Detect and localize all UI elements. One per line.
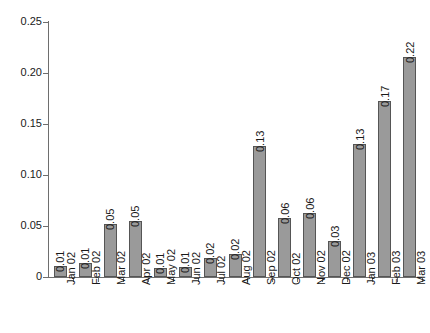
y-tick-mark (43, 226, 48, 227)
y-tick-mark (43, 175, 48, 176)
y-tick-label: 0.25 (4, 16, 42, 27)
y-tick-label: 0.15 (4, 118, 42, 129)
y-tick-mark (43, 277, 48, 278)
x-axis-label: Apr 02 (141, 253, 152, 285)
x-axis-label: Jul 02 (216, 256, 227, 285)
x-axis-label: Aug 02 (241, 250, 252, 285)
bar-chart: 00.050.100.150.200.25 0.010.010.050.050.… (0, 0, 430, 333)
x-axis-label: Oct 02 (291, 253, 302, 285)
y-tick-mark (43, 124, 48, 125)
x-axis-label: Feb 03 (391, 251, 402, 285)
x-axis-label: Jun 02 (191, 252, 202, 285)
x-axis-label: Feb 02 (91, 251, 102, 285)
bar (403, 57, 416, 277)
bar-value-label: 0.13 (255, 131, 266, 152)
x-axis-label: Nov 02 (316, 250, 327, 285)
y-tick-label: 0.20 (4, 67, 42, 78)
x-axis-label: Dec 02 (341, 250, 352, 285)
y-tick-mark (43, 73, 48, 74)
bar-value-label: 0.13 (355, 129, 366, 150)
y-tick-label: 0 (4, 271, 42, 282)
y-axis-line (48, 21, 49, 278)
y-tick-mark (43, 22, 48, 23)
bar-value-label: 0.06 (305, 197, 316, 218)
y-tick-label: 0.05 (4, 220, 42, 231)
x-axis-label: Mar 03 (416, 251, 427, 285)
bar-value-label: 0.17 (380, 85, 391, 106)
y-tick-label: 0.10 (4, 169, 42, 180)
x-axis-label: Jan 02 (66, 252, 77, 285)
x-axis-label: Jan 03 (366, 252, 377, 285)
x-axis-label: Mar 02 (116, 251, 127, 285)
bar-value-label: 0.05 (105, 209, 116, 230)
x-axis-label: May 02 (166, 249, 177, 285)
bar-value-label: 0.22 (405, 41, 416, 62)
x-axis-label: Sep 02 (266, 250, 277, 285)
bar-value-label: 0.06 (280, 202, 291, 223)
bar-value-label: 0.03 (330, 226, 341, 247)
bar-value-label: 0.05 (130, 205, 141, 226)
